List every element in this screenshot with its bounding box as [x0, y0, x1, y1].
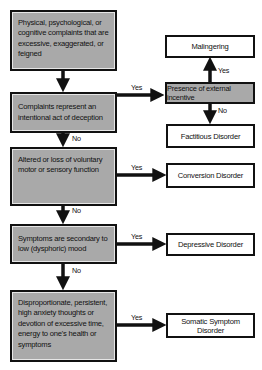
outcome-depressive: Depressive Disorder — [166, 233, 255, 256]
outcome-conversion-text: Conversion Disorder — [178, 171, 243, 180]
edge-label-motor-no: No — [72, 206, 81, 215]
edge-label-deception-no: No — [72, 134, 81, 143]
outcome-conversion: Conversion Disorder — [166, 163, 255, 188]
node-mood: Symptoms are secondary to low (dysphoric… — [10, 224, 117, 264]
edge-label-incentive-yes: Yes — [218, 66, 229, 75]
outcome-factitious-text: Factitious Disorder — [181, 132, 241, 141]
outcome-malingering-text: Malingering — [191, 42, 228, 51]
edge-label-mood-yes: Yes — [131, 232, 142, 241]
outcome-somatic-text: Somatic Symptom Disorder — [168, 317, 253, 335]
outcome-somatic: Somatic Symptom Disorder — [166, 313, 255, 338]
node-deception: Complaints represent an intentional act … — [10, 92, 117, 133]
node-deception-text: Complaints represent an intentional act … — [18, 102, 109, 123]
node-motor-text: Altered or loss of voluntary motor or se… — [18, 155, 109, 176]
node-incentive: Presence of external incentive — [165, 82, 255, 104]
edge-label-motor-yes: Yes — [131, 163, 142, 172]
node-mood-text: Symptoms are secondary to low (dysphoric… — [18, 234, 109, 255]
edge-label-incentive-no: No — [218, 106, 227, 115]
node-complaints-text: Physical, psychological, or cognitive co… — [18, 18, 109, 60]
edge-label-deception-yes: Yes — [131, 83, 142, 92]
edge-label-mood-no: No — [72, 266, 81, 275]
node-anxiety-text: Disproportionate, persistent, high anxie… — [18, 298, 109, 350]
edge-label-anxiety-yes: Yes — [131, 313, 142, 322]
node-incentive-text: Presence of external incentive — [167, 84, 253, 102]
outcome-factitious: Factitious Disorder — [166, 124, 255, 148]
outcome-depressive-text: Depressive Disorder — [178, 240, 243, 249]
node-anxiety: Disproportionate, persistent, high anxie… — [10, 290, 117, 362]
node-motor: Altered or loss of voluntary motor or se… — [10, 147, 117, 206]
node-complaints: Physical, psychological, or cognitive co… — [10, 10, 117, 71]
outcome-malingering: Malingering — [165, 35, 255, 58]
